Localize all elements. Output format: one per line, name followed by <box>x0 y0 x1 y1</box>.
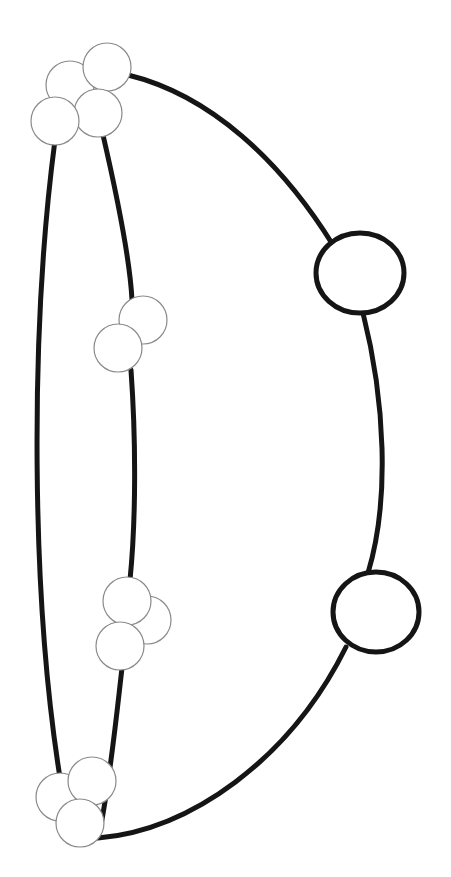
small-node-8 <box>96 622 144 670</box>
small-node-7 <box>103 577 151 625</box>
large-node-0 <box>316 233 404 313</box>
large-node-1 <box>333 572 419 652</box>
small-node-1 <box>83 43 131 91</box>
small-node-11 <box>56 799 104 847</box>
small-node-3 <box>31 97 79 145</box>
small-node-5 <box>94 324 142 372</box>
small-node-2 <box>74 89 122 137</box>
small-node-10 <box>68 757 116 805</box>
diagram-canvas <box>0 0 451 877</box>
